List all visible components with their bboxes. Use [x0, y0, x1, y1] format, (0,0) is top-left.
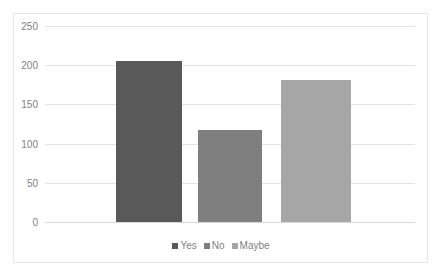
legend-item-no: No [204, 240, 225, 251]
bar-maybe [281, 80, 351, 222]
legend-item-maybe: Maybe [232, 240, 270, 251]
gridline-150 [45, 104, 415, 105]
y-tick-50: 50 [10, 178, 38, 189]
legend-swatch-icon [232, 243, 238, 249]
legend-item-yes: Yes [172, 240, 196, 251]
y-tick-250: 250 [10, 21, 38, 32]
gridline-200 [45, 65, 415, 66]
y-tick-150: 150 [10, 99, 38, 110]
bar-no [198, 130, 262, 222]
x-axis-baseline [45, 222, 415, 223]
plot-area [45, 26, 415, 222]
bar-yes [116, 61, 182, 223]
legend-label: No [212, 240, 225, 251]
y-tick-200: 200 [10, 60, 38, 71]
gridline-250 [45, 26, 415, 27]
y-tick-100: 100 [10, 139, 38, 150]
legend-swatch-icon [204, 243, 210, 249]
legend-label: Maybe [240, 240, 270, 251]
legend-swatch-icon [172, 243, 178, 249]
y-tick-0: 0 [10, 217, 38, 228]
legend: Yes No Maybe [0, 240, 442, 251]
legend-label: Yes [180, 240, 196, 251]
